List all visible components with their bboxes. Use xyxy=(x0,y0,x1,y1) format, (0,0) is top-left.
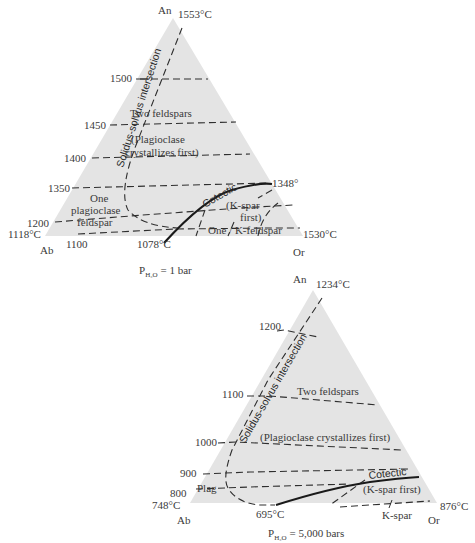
field-one-plag: One xyxy=(90,192,108,204)
vertex-or: Or xyxy=(428,514,440,526)
bottom-temp: 1078°C xyxy=(137,238,171,250)
field-kspar: K-spar xyxy=(382,509,412,521)
vertex-an-temp: 1234°C xyxy=(316,278,350,290)
field-one-kfeldspar: One / K-feldspar xyxy=(208,224,282,236)
bottom-temp: 695°C xyxy=(256,508,284,520)
cotectic-end-temp: 1348° xyxy=(272,177,298,189)
field-plag-first: (Plagioclase xyxy=(131,133,185,146)
isotherm-label: 900 xyxy=(180,467,197,479)
isotherm-label: 1000 xyxy=(195,436,218,448)
vertex-ab-temp: 1118°C xyxy=(8,228,41,240)
pressure-caption: PH₂O = 5,000 bars xyxy=(268,527,344,542)
isotherm-label: 1500 xyxy=(110,72,133,84)
field-kspar-first: (K-spar first) xyxy=(363,483,421,496)
pressure-caption: PH₂O = 1 bar xyxy=(139,264,192,279)
field-one-plag: plagioclase xyxy=(71,204,121,216)
field-one-plag: feldspar xyxy=(77,216,113,228)
isotherm-label: 1200 xyxy=(259,320,282,332)
isotherm-label: 1100 xyxy=(222,388,244,400)
vertex-ab-temp: 748°C xyxy=(152,499,180,511)
feldspar-ternary-diagrams: An 1553°C 1500 1450 1400 1350 1200 1100 … xyxy=(0,0,475,543)
field-two-feldspars: Two feldspars xyxy=(297,385,359,397)
diagram-1-bar: An 1553°C 1500 1450 1400 1350 1200 1100 … xyxy=(8,4,337,279)
diagram-5000-bars: An 1234°C 1200 1100 1000 900 800 748°C A… xyxy=(152,273,468,542)
vertex-ab: Ab xyxy=(177,514,191,526)
vertex-ab: Ab xyxy=(40,244,54,256)
field-plag-first: (Plagioclase crystallizes first) xyxy=(260,431,390,444)
vertex-or: Or xyxy=(293,246,305,258)
field-plag-first: crystallizes first) xyxy=(125,146,199,159)
field-plag: Plag xyxy=(197,482,217,494)
isotherm-label: 1450 xyxy=(84,119,107,131)
isotherm-label: 1350 xyxy=(48,182,71,194)
isotherm-label: 1100 xyxy=(66,238,88,250)
field-kspar-first: first) xyxy=(240,211,262,224)
isotherm-label: 1400 xyxy=(64,152,87,164)
isotherm-label: 800 xyxy=(170,487,187,499)
vertex-an: An xyxy=(293,273,307,285)
vertex-or-temp: 876°C xyxy=(440,500,468,512)
vertex-an: An xyxy=(158,4,172,16)
vertex-or-temp: 1530°C xyxy=(303,228,337,240)
vertex-an-temp: 1553°C xyxy=(178,8,212,20)
